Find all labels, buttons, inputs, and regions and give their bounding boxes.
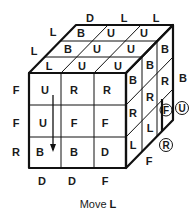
outer-label: L	[31, 45, 38, 57]
front-sticker: F	[102, 117, 109, 129]
caption-prefix: Move	[80, 198, 107, 210]
outer-label: F	[13, 84, 20, 96]
top-sticker: B	[64, 43, 72, 55]
front-sticker: B	[70, 146, 78, 158]
outer-label: F	[102, 175, 109, 187]
outer-label: R	[12, 146, 20, 158]
front-sticker: U	[39, 117, 47, 129]
outer-label: F	[13, 117, 20, 129]
top-sticker: U	[114, 60, 122, 72]
top-sticker: B	[77, 27, 85, 39]
top-sticker: L	[46, 60, 53, 72]
outer-label: B	[179, 72, 187, 84]
front-sticker: R	[70, 84, 78, 96]
outer-label: D	[86, 12, 94, 24]
top-sticker: U	[140, 27, 148, 39]
move-arrow-down	[50, 95, 56, 152]
top-sticker: U	[78, 60, 86, 72]
front-sticker: D	[101, 146, 109, 158]
front-sticker: F	[71, 117, 78, 129]
right-sticker: B	[161, 43, 169, 55]
right-sticker: R	[161, 75, 169, 87]
circled-label: U	[178, 103, 185, 114]
right-sticker: B	[146, 59, 154, 71]
outer-label: L	[50, 26, 57, 38]
rubiks-cube-diagram: B U U B U U L U U U R R U F F B B D B B …	[0, 0, 196, 212]
right-sticker: B	[129, 74, 137, 86]
top-sticker: U	[107, 27, 115, 39]
top-sticker: U	[127, 43, 135, 55]
front-sticker: B	[36, 146, 44, 158]
top-sticker: U	[93, 43, 101, 55]
outer-label: F	[146, 155, 153, 167]
outer-label: L	[121, 12, 128, 24]
caption: Move L	[80, 198, 117, 210]
circled-label: F	[163, 105, 169, 116]
outer-label: D	[38, 175, 46, 187]
front-sticker: U	[41, 84, 49, 96]
right-sticker: L	[147, 122, 154, 134]
outer-label: L	[153, 12, 160, 24]
right-sticker: R	[129, 107, 137, 119]
outer-label: D	[68, 175, 76, 187]
right-sticker: L	[130, 139, 137, 151]
right-sticker: R	[146, 91, 154, 103]
caption-move: L	[110, 198, 117, 210]
front-sticker: R	[103, 84, 111, 96]
circled-label: R	[162, 140, 170, 151]
